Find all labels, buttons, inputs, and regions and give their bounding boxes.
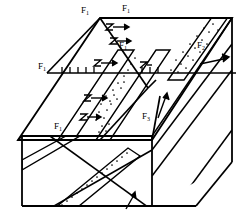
front-face-marker-bed — [22, 136, 140, 220]
slip-marker-z-1 — [106, 24, 129, 30]
fault-label-f2-right: F2 — [197, 41, 205, 50]
fault-label-f1-left: F1 — [38, 62, 46, 71]
fault-trace-f1 — [47, 18, 148, 88]
fault-label-f1-top-left: F1 — [81, 6, 89, 15]
slip-marker-z-3 — [94, 60, 117, 66]
fault-label-f1-lower-left: F1 — [54, 122, 62, 131]
block-diagram-svg — [0, 0, 239, 220]
block-diagram-figure: F1 F1 F1 F1 F2 F3 F1 — [0, 0, 239, 220]
fault-label-f1-mid: F1 — [119, 41, 127, 50]
fault-label-f1-top-right: F1 — [122, 4, 130, 13]
fault-label-f3-center: F3 — [142, 112, 150, 121]
